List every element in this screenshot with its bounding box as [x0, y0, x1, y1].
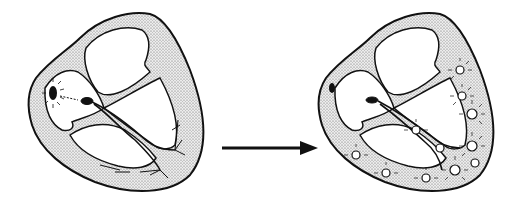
transition-arrow-icon	[222, 141, 318, 155]
heart-left-panel	[29, 13, 204, 191]
diagram-canvas	[0, 0, 505, 207]
heart-right-panel	[319, 13, 494, 191]
sa-node-icon	[329, 83, 335, 93]
